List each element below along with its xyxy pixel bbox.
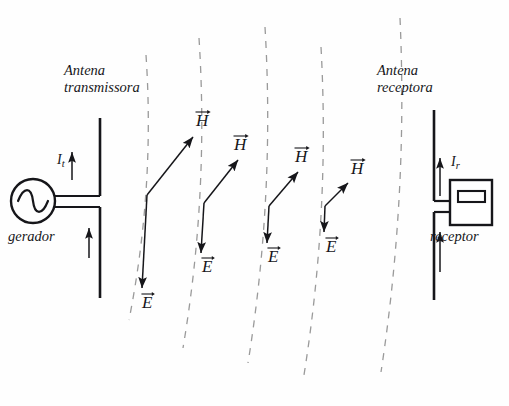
electric-field-label-2: E bbox=[202, 256, 212, 277]
generator-label: gerador bbox=[8, 228, 55, 245]
transmit-current-subscript: t bbox=[62, 158, 65, 169]
wavefront-arcs bbox=[129, 18, 402, 375]
magnetic-field-label-3: H bbox=[295, 146, 307, 167]
vector-overarrow-icon bbox=[325, 234, 339, 241]
transmit-current-label: It bbox=[57, 152, 65, 170]
wavefront-arc-2 bbox=[183, 38, 202, 348]
magnetic-field-vector-2 bbox=[204, 160, 238, 203]
electric-field-vector-3 bbox=[267, 206, 269, 243]
vector-overarrow-icon bbox=[267, 244, 281, 251]
wave-propagation-figure: Antena transmissora Antena receptora ger… bbox=[0, 0, 509, 406]
wavefront-arc-3 bbox=[248, 27, 268, 363]
receive-antenna-label: Antena receptora bbox=[377, 62, 433, 96]
magnetic-field-label-4: H bbox=[351, 158, 363, 179]
electric-field-vector-4 bbox=[324, 206, 325, 232]
electric-field-label-1: E bbox=[142, 292, 152, 313]
wavefront-arc-4 bbox=[304, 47, 323, 375]
transmit-antenna-label-line1: Antena bbox=[64, 62, 140, 79]
electric-field-vector-2 bbox=[201, 203, 204, 253]
figure-canvas bbox=[0, 0, 509, 406]
magnetic-field-vector-1 bbox=[147, 137, 193, 195]
magnetic-field-vector-3 bbox=[269, 172, 298, 206]
vector-overarrow-icon bbox=[195, 108, 211, 115]
vector-overarrow-icon bbox=[294, 144, 310, 151]
electric-field-label-4: E bbox=[326, 236, 336, 257]
receiver-label: receptor bbox=[430, 228, 479, 245]
vector-overarrow-icon bbox=[350, 156, 366, 163]
receive-current-label: Ir bbox=[451, 154, 460, 172]
transmitter-assembly bbox=[11, 118, 100, 298]
receive-antenna-label-line1: Antena bbox=[377, 62, 433, 79]
generator-sine-glyph bbox=[18, 190, 48, 212]
magnetic-field-label-2: H bbox=[234, 134, 246, 155]
transmit-antenna-label-line2: transmissora bbox=[64, 79, 140, 96]
receive-antenna-label-line2: receptora bbox=[377, 79, 433, 96]
vector-overarrow-icon bbox=[201, 254, 215, 261]
electric-field-label-3: E bbox=[268, 246, 278, 267]
vector-overarrow-icon bbox=[233, 132, 249, 139]
vector-overarrow-icon bbox=[141, 290, 155, 297]
receive-current-subscript: r bbox=[456, 160, 460, 171]
receiver-meter-display bbox=[458, 191, 485, 202]
receiver-assembly bbox=[434, 110, 492, 300]
magnetic-field-vector-4 bbox=[325, 183, 348, 206]
transmit-antenna-label: Antena transmissora bbox=[64, 62, 140, 96]
field-vector-layer bbox=[142, 137, 348, 288]
magnetic-field-label-1: H bbox=[196, 110, 208, 131]
